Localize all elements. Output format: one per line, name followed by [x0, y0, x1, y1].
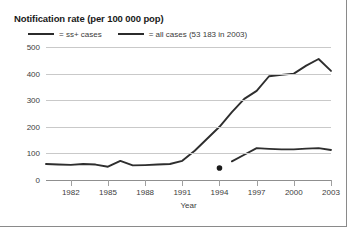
x-axis-tick-label: 1985 [99, 188, 117, 197]
y-axis-tick-label: 200 [6, 122, 40, 131]
x-axis-tick [108, 180, 109, 186]
y-axis-tick-label: 300 [6, 96, 40, 105]
legend-label-sspos: = ss+ cases [59, 30, 102, 39]
y-axis-tick-label: 500 [6, 43, 40, 52]
x-axis-title: Year [46, 201, 331, 210]
x-axis-tick [257, 180, 258, 186]
x-axis-tick-label: 1994 [211, 188, 229, 197]
x-axis-tick [331, 180, 332, 186]
x-axis-tick [294, 180, 295, 186]
x-axis-tick-label: 2000 [285, 188, 303, 197]
legend-swatch-allcases-icon [118, 33, 144, 36]
y-axis-labels: 0100200300400500 [6, 47, 40, 180]
x-axis-tick [71, 180, 72, 186]
legend-label-allcases: = all cases (53 183 in 2003) [149, 30, 248, 39]
data-point-marker [217, 165, 223, 171]
gridline [46, 74, 331, 75]
legend-entry-allcases: = all cases (53 183 in 2003) [118, 30, 248, 39]
y-axis-tick-label: 0 [6, 176, 40, 185]
plot-area [46, 47, 331, 180]
x-axis-tick [182, 180, 183, 186]
series-line-ss-cases [232, 148, 331, 161]
x-axis-tick-label: 2003 [322, 188, 340, 197]
x-axis-labels: 19821985198819911994199720002003 [46, 188, 331, 200]
gridline [46, 127, 331, 128]
y-axis-tick-label: 400 [6, 69, 40, 78]
x-axis-tick-label: 1988 [136, 188, 154, 197]
series-line-all-cases [46, 59, 331, 167]
x-axis-ticks [46, 180, 331, 187]
x-axis-tick [219, 180, 220, 186]
x-axis-tick-label: 1982 [62, 188, 80, 197]
gridline [46, 153, 331, 154]
chart-legend: = ss+ cases = all cases (53 183 in 2003) [28, 28, 263, 40]
x-axis-tick [145, 180, 146, 186]
legend-swatch-sspos-icon [28, 33, 54, 36]
x-axis-tick-label: 1991 [173, 188, 191, 197]
chart-title: Notification rate (per 100 000 pop) [14, 13, 164, 24]
series-layer [46, 47, 331, 180]
gridline [46, 100, 331, 101]
y-axis-tick-label: 100 [6, 149, 40, 158]
notification-rate-chart: Notification rate (per 100 000 pop) = ss… [0, 0, 348, 228]
gridline [46, 47, 331, 48]
x-axis-tick-label: 1997 [248, 188, 266, 197]
legend-entry-sspos: = ss+ cases [28, 30, 102, 39]
